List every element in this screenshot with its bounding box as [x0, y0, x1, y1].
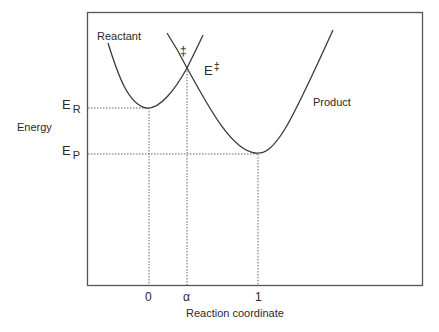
- reactant-energy-label: ER: [62, 97, 81, 115]
- product-label: Product: [313, 96, 351, 108]
- product-energy-label: EP: [62, 143, 80, 161]
- x-tick-zero: 0: [145, 290, 152, 304]
- transition-state-marker: ‡: [180, 44, 187, 58]
- energy-diagram-canvas: [0, 0, 439, 332]
- x-tick-alpha: α: [183, 290, 190, 304]
- x-tick-one: 1: [255, 290, 262, 304]
- product-curve: [167, 30, 333, 153]
- y-axis-label: Energy: [17, 121, 52, 133]
- plot-frame: [88, 13, 423, 286]
- guide-lines: [88, 68, 258, 285]
- reactant-label: Reactant: [97, 30, 141, 42]
- transition-energy-label: E‡: [204, 60, 220, 78]
- x-axis-label: Reaction coordinate: [186, 307, 284, 319]
